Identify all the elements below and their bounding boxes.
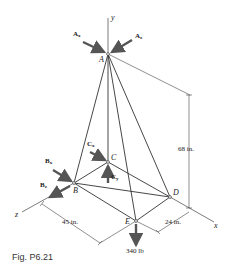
axis-label-y: y xyxy=(111,14,115,22)
member-AE xyxy=(108,54,136,221)
point-label-C: C xyxy=(111,154,116,162)
figure-caption: Fig. P6.21 xyxy=(12,252,53,262)
force-label-Bz: Bz xyxy=(40,182,47,189)
dim-24-ext xyxy=(136,221,158,232)
member-BE xyxy=(74,183,136,221)
arrow-Az xyxy=(112,40,132,52)
point-label-D: D xyxy=(173,189,179,197)
arrow-Bz xyxy=(50,186,70,197)
force-label-Az: Az xyxy=(135,33,142,40)
member-AB xyxy=(74,54,108,183)
dim-45-ext xyxy=(100,221,136,243)
arrow-Ax xyxy=(83,42,104,52)
joint-D xyxy=(169,196,172,199)
joint-C xyxy=(107,161,110,164)
truss-members xyxy=(74,54,170,221)
force-label-Cx: Cx xyxy=(87,141,95,148)
dimension-height-label: 68 in. xyxy=(178,146,194,153)
dimension-45-label: 45 in. xyxy=(62,219,78,226)
point-label-E: E xyxy=(125,218,130,226)
dim-ext-top xyxy=(108,54,190,95)
joint-E xyxy=(135,220,138,223)
joint-B xyxy=(73,182,76,185)
member-BD xyxy=(74,183,170,197)
force-label-Ax: Ax xyxy=(73,31,81,38)
arrow-Bx xyxy=(53,170,71,181)
dimension-24-label: 24 in. xyxy=(165,219,181,226)
force-label-Cy: Cy xyxy=(111,174,119,181)
dimension-lines xyxy=(40,54,192,245)
point-label-B: B xyxy=(73,187,78,195)
axis-label-z: z xyxy=(15,211,18,219)
load-label: 340 lb xyxy=(126,248,144,255)
space-truss-diagram xyxy=(0,0,230,270)
axis-label-x: x xyxy=(214,222,218,230)
force-label-Bx: Bx xyxy=(45,158,52,165)
point-label-A: A xyxy=(99,56,104,64)
joint-A xyxy=(107,53,110,56)
arrow-Cx xyxy=(90,152,105,160)
